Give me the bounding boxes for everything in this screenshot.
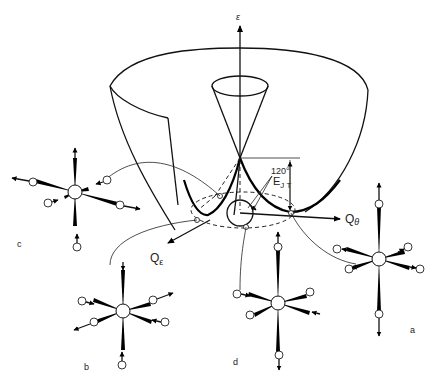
molecule-d: d (233, 232, 320, 370)
panel-label-b: b (84, 362, 89, 372)
molecule-a: a (333, 183, 424, 336)
angle-label: 120° (271, 166, 290, 176)
ejt-label: EJ T (273, 175, 291, 190)
energy-axis-label: ε (236, 12, 241, 22)
potential-surface (110, 48, 368, 230)
connector-curves (105, 162, 356, 290)
q-theta-label: Qθ (345, 212, 359, 227)
panel-label-d: d (233, 357, 238, 367)
panel-label-c: c (17, 239, 22, 249)
molecule-b: b (74, 262, 173, 372)
q-theta-axis: Qθ (240, 212, 359, 227)
jahn-teller-diagram: ε (0, 0, 436, 379)
q-epsilon-label: Qε (150, 251, 163, 267)
lower-surface-section (184, 158, 340, 215)
panel-label-a: a (410, 325, 415, 335)
molecule-c: c (12, 148, 140, 251)
